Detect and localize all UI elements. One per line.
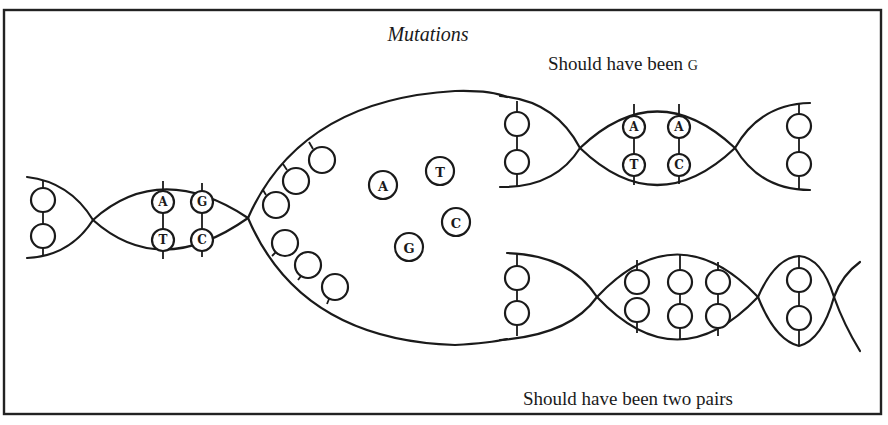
strand-segment bbox=[580, 112, 735, 149]
exposed-base bbox=[272, 230, 298, 256]
lower-daughter-helix bbox=[500, 253, 860, 351]
free-nucleotide-label: C bbox=[451, 216, 461, 231]
free-nucleotide-label: T bbox=[435, 165, 445, 180]
exposed-base bbox=[283, 168, 309, 194]
strand-segment bbox=[834, 297, 860, 351]
dna-replication-mutations-diagram: Mutations Should have been G Should have… bbox=[0, 0, 888, 425]
caption-should-have-been-two-pairs: Should have been two pairs bbox=[523, 388, 733, 409]
base-unlabeled bbox=[505, 150, 529, 174]
base-label: A bbox=[628, 120, 639, 134]
base-unlabeled bbox=[787, 268, 811, 292]
strand-segment bbox=[580, 148, 735, 185]
free-nucleotide-label: G bbox=[403, 241, 414, 256]
base-unlabeled bbox=[706, 270, 730, 294]
base-unlabeled bbox=[668, 270, 692, 294]
caption-should-have-been-g: Should have been G bbox=[548, 53, 698, 74]
base-unlabeled bbox=[668, 304, 692, 328]
base-unlabeled bbox=[625, 270, 649, 294]
exposed-base bbox=[322, 274, 348, 300]
base-unlabeled bbox=[787, 152, 811, 176]
upper-daughter-helix: A T A C bbox=[500, 96, 811, 190]
base-label: C bbox=[674, 158, 684, 172]
exposed-base bbox=[309, 147, 335, 173]
base-label: A bbox=[673, 120, 684, 134]
base-unlabeled bbox=[505, 266, 529, 290]
free-nucleotide-label: A bbox=[377, 179, 389, 194]
base-label: T bbox=[630, 158, 639, 172]
parent-helix: A T G C bbox=[27, 177, 248, 259]
base-unlabeled bbox=[625, 298, 649, 322]
figure-frame bbox=[4, 10, 881, 414]
figure-title: Mutations bbox=[386, 23, 468, 45]
base-label: C bbox=[197, 233, 207, 247]
base-label: A bbox=[157, 195, 168, 209]
base-unlabeled bbox=[706, 304, 730, 328]
exposed-base bbox=[263, 192, 289, 218]
base-label: G bbox=[197, 195, 207, 209]
base-unlabeled bbox=[31, 188, 55, 212]
strand-segment bbox=[834, 262, 860, 297]
base-unlabeled bbox=[505, 301, 529, 325]
base-label: T bbox=[159, 233, 168, 247]
base-unlabeled bbox=[31, 224, 55, 248]
exposed-base bbox=[295, 252, 321, 278]
base-unlabeled bbox=[787, 114, 811, 138]
base-unlabeled bbox=[505, 112, 529, 136]
base-unlabeled bbox=[787, 306, 811, 330]
replication-fork: A T C G bbox=[248, 91, 507, 345]
